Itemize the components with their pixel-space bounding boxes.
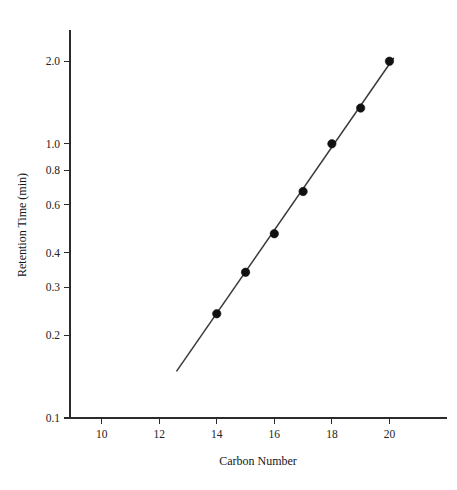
chart-figure: 0.10.20.30.40.60.81.02.0 101214161820 Ca… bbox=[0, 0, 457, 490]
y-axis-tick-label: 2.0 bbox=[46, 55, 61, 67]
y-axis-tick-label: 0.6 bbox=[46, 199, 61, 211]
data-point bbox=[270, 230, 278, 238]
x-axis-tick-label: 20 bbox=[384, 428, 396, 440]
x-axis-tick-label: 10 bbox=[96, 428, 108, 440]
y-axis-tick-label: 1.0 bbox=[46, 138, 61, 150]
data-point bbox=[299, 187, 307, 195]
axes-group bbox=[70, 30, 447, 418]
x-axis-ticks: 101214161820 bbox=[96, 418, 396, 440]
y-axis-ticks: 0.10.20.30.40.60.81.02.0 bbox=[46, 55, 70, 424]
y-axis-tick-label: 0.4 bbox=[46, 247, 61, 259]
x-axis-tick-label: 14 bbox=[211, 428, 223, 440]
y-axis-title: Retention Time (min) bbox=[15, 173, 29, 277]
data-point bbox=[328, 140, 336, 148]
data-point bbox=[385, 57, 393, 65]
retention-time-vs-carbon-number-plot: 0.10.20.30.40.60.81.02.0 101214161820 Ca… bbox=[0, 0, 457, 490]
y-axis-tick-label: 0.1 bbox=[46, 412, 61, 424]
x-axis-tick-label: 18 bbox=[326, 428, 338, 440]
x-axis-title: Carbon Number bbox=[219, 454, 297, 468]
y-axis-tick-label: 0.2 bbox=[46, 329, 61, 341]
x-axis-tick-label: 16 bbox=[269, 428, 281, 440]
data-point bbox=[356, 104, 364, 112]
y-axis-tick-label: 0.3 bbox=[46, 281, 61, 293]
y-axis-tick-label: 0.8 bbox=[46, 164, 61, 176]
x-axis-tick-label: 12 bbox=[153, 428, 165, 440]
data-point bbox=[213, 310, 221, 318]
data-point bbox=[241, 268, 249, 276]
